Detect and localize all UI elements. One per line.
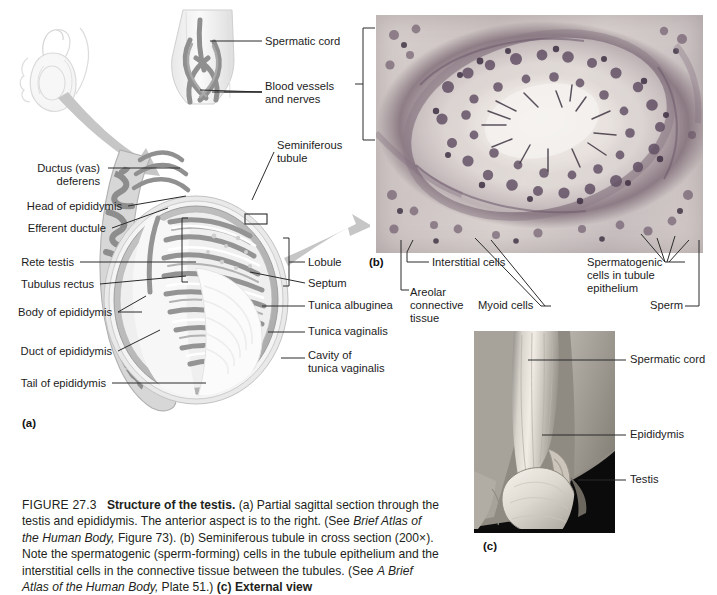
label-areolar-connective-tissue: Areolar connective tissue bbox=[410, 286, 464, 325]
label-testis-c: Testis bbox=[630, 473, 659, 486]
figure-number: FIGURE 27.3 bbox=[22, 498, 97, 512]
label-rete-testis: Rete testis bbox=[0, 256, 74, 269]
label-tail-of-epididymis: Tail of epididymis bbox=[0, 377, 106, 390]
label-lobule: Lobule bbox=[308, 256, 342, 269]
label-seminiferous-tubule: Seminiferous tubule bbox=[277, 139, 342, 165]
panel-c-tag: (c) bbox=[483, 540, 497, 552]
label-blood-vessels-and-nerves: Blood vessels and nerves bbox=[265, 80, 334, 106]
label-interstitial-cells: Interstitial cells bbox=[432, 256, 505, 269]
label-ductus-vas-deferens: Ductus (vas) deferens bbox=[0, 162, 100, 188]
caption-a-tail: Figure 73). bbox=[115, 531, 177, 545]
label-tubulus-rectus: Tubulus rectus bbox=[0, 278, 94, 291]
label-spermatogenic-cells: Spermatogenic cells in tubule epithelium bbox=[587, 256, 662, 295]
orientation-inset bbox=[20, 28, 88, 112]
label-spermatic-cord-c: Spermatic cord bbox=[630, 353, 705, 366]
label-epididymis-c: Epididymis bbox=[630, 428, 684, 441]
label-head-of-epididymis: Head of epididymis bbox=[0, 200, 122, 213]
label-sperm: Sperm bbox=[650, 299, 683, 312]
panel-b-tag: (b) bbox=[369, 256, 384, 268]
label-cavity-of-tunica-vaginalis: Cavity of tunica vaginalis bbox=[308, 349, 385, 375]
panel-b-leaders bbox=[355, 0, 717, 330]
panel-a-tag: (a) bbox=[22, 417, 36, 429]
label-duct-of-epididymis: Duct of epididymis bbox=[0, 345, 112, 358]
label-efferent-ductule: Efferent ductule bbox=[0, 222, 106, 235]
label-myoid-cells: Myoid cells bbox=[478, 299, 533, 312]
label-septum: Septum bbox=[308, 277, 347, 290]
caption-b-tail: Plate 51.) bbox=[158, 580, 213, 594]
label-body-of-epididymis: Body of epididymis bbox=[0, 306, 112, 319]
label-spermatic-cord-a: Spermatic cord bbox=[265, 35, 340, 48]
figure-caption: FIGURE 27.3 Structure of the testis. (a)… bbox=[22, 497, 440, 595]
caption-c-tag: (c) External view bbox=[217, 580, 312, 594]
figure-title: Structure of the testis. bbox=[107, 498, 235, 512]
efferent-ductules bbox=[134, 153, 188, 191]
